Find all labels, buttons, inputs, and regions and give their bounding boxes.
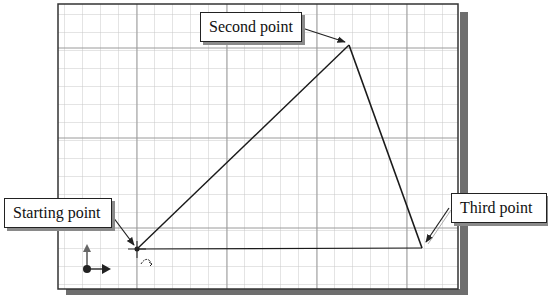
frame-shadow-bottom xyxy=(66,289,468,295)
sketch-canvas[interactable] xyxy=(0,0,548,295)
frame-shadow-right xyxy=(460,12,468,295)
grid xyxy=(58,4,458,289)
starting-point-callout: Starting point xyxy=(4,198,112,228)
second-point-callout: Second point xyxy=(200,12,302,42)
third-point-callout: Third point xyxy=(451,193,547,223)
sketch-diagram: Second point Starting point Third point xyxy=(0,0,548,295)
